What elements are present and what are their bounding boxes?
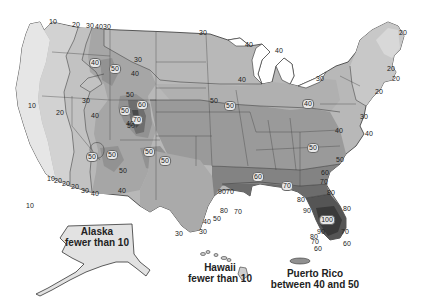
contour-label: 10	[27, 102, 37, 110]
puerto-rico-caption-name: Puerto Rico	[271, 268, 359, 279]
puerto-rico-caption: Puerto Rico between 40 and 50	[271, 268, 359, 290]
hawaii-caption-name: Hawaii	[188, 262, 252, 273]
contour-label: 30	[174, 230, 184, 238]
contour-label: 50	[307, 143, 319, 153]
contour-label: 20	[391, 75, 401, 83]
contour-label: 30	[198, 29, 208, 37]
contour-label: 40	[125, 120, 135, 128]
contour-label: 70	[233, 208, 243, 216]
contour-label: 80	[326, 189, 336, 197]
contour-label: 60	[313, 245, 323, 253]
alaska-caption: Alaska fewer than 10	[65, 226, 129, 248]
contour-label: 30	[81, 97, 91, 105]
contour-label: 40	[334, 127, 344, 135]
contour-label: 50	[118, 167, 128, 175]
alaska-caption-name: Alaska	[65, 226, 129, 237]
contour-label: 40	[244, 41, 254, 49]
hawaii-caption: Hawaii fewer than 10	[188, 262, 252, 284]
contour-label: 10	[25, 202, 35, 210]
contour-label: 30	[198, 228, 208, 236]
puerto-rico-inset	[290, 258, 310, 264]
contour-label: 70	[319, 178, 329, 186]
contour-label: 30	[102, 23, 112, 31]
contour-label: 40	[202, 218, 212, 226]
contour-label: 50	[209, 97, 219, 105]
puerto-rico-caption-value: between 40 and 50	[271, 279, 359, 290]
contour-label: 60	[136, 100, 148, 110]
contour-label: 90	[217, 188, 227, 196]
contour-label: 60	[342, 240, 352, 248]
contour-label: 40	[302, 99, 314, 109]
contour-label: 30	[315, 75, 325, 83]
contour-label: 50	[106, 150, 118, 160]
contour-label: 30	[359, 113, 369, 121]
contour-label: 40	[274, 47, 284, 55]
contour-label: 50	[143, 147, 155, 157]
zone-70	[222, 184, 330, 198]
contour-label: 40	[130, 70, 140, 78]
contour-label: 40	[237, 76, 247, 84]
contour-label: 50	[109, 64, 121, 74]
contour-label: 50	[212, 215, 222, 223]
contour-label: 30	[80, 187, 90, 195]
hawaii-caption-value: fewer than 10	[188, 273, 252, 284]
contour-label: 30	[133, 56, 143, 64]
contour-label: 20	[70, 183, 80, 191]
contour-label: 50	[119, 106, 131, 116]
contour-label: 20	[398, 29, 408, 37]
contour-label: 20	[55, 109, 65, 117]
contour-label: 50	[335, 156, 345, 164]
contour-label: 10	[48, 18, 58, 26]
contour-label: 40	[89, 58, 101, 68]
contour-label: 80	[219, 207, 229, 215]
contour-label: 50	[125, 91, 135, 99]
contour-label: 20	[71, 21, 81, 29]
contour-label: 70	[281, 181, 293, 191]
contour-label: 50	[159, 156, 171, 166]
contour-label: 50	[224, 101, 236, 111]
contour-label: 40	[90, 112, 100, 120]
contour-label: 100	[319, 215, 335, 225]
contour-label: 40	[117, 187, 127, 195]
contour-label: 70	[340, 228, 350, 236]
contour-label: 80	[296, 196, 306, 204]
contour-label: 40	[90, 190, 100, 198]
alaska-caption-value: fewer than 10	[65, 237, 129, 248]
contour-label: 50	[86, 152, 98, 162]
contour-label: 40	[364, 130, 374, 138]
contour-label: 60	[320, 169, 330, 177]
contour-label: 80	[342, 205, 352, 213]
contour-label: 20	[374, 88, 384, 96]
contour-label: 20	[386, 65, 396, 73]
contour-label: 90	[302, 207, 312, 215]
contour-label: 60	[252, 172, 264, 182]
